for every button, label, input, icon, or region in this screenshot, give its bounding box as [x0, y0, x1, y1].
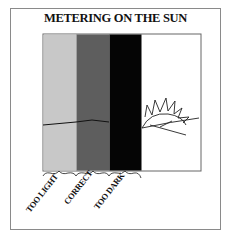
strip-correct — [77, 35, 110, 171]
strip-too-light — [44, 35, 77, 171]
strip-too-dark — [110, 35, 142, 171]
label-too-dark: TOO DARK — [92, 170, 127, 211]
metering-diagram: TOO LIGHT CORRECT TOO DARK — [0, 0, 231, 238]
label-too-light: TOO LIGHT — [24, 171, 61, 214]
